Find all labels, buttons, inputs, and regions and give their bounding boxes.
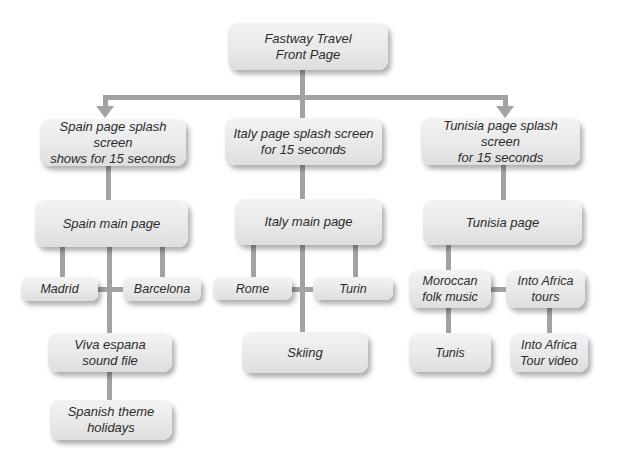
connector-moroccan-tours [490,287,507,292]
node-into-africa-tours: Into Africa tours [506,270,585,308]
connector-moroccan-tunis [446,306,451,334]
connector-spain-madrid [60,245,65,278]
connector-italy-turin [353,244,358,278]
arrow-down-icon-tunisia [496,106,514,118]
connector-spain-splash-main [106,165,111,201]
node-italy-splash: Italy page splash screen for 15 seconds [225,118,382,165]
connector-tours-video [547,306,552,334]
node-spain-main: Spain main page [35,200,188,247]
node-spain-splash: Spain page splash screen shows for 15 se… [40,119,186,166]
connector-madrid-barcelona [97,287,124,292]
connector-tunisia-moroccan [446,244,451,271]
connector-spain-barcelona [160,245,165,278]
node-moroccan-folk-music: Moroccan folk music [409,270,491,308]
connector-viva-spanish-theme [107,370,112,401]
connector-front-vertical [300,70,305,118]
connector-top-horizontal [103,95,508,100]
node-italy-main: Italy main page [235,199,382,245]
node-front-page: Fastway Travel Front Page [228,23,388,70]
node-tunisia-splash: Tunisia page splash screen for 15 second… [421,118,580,165]
node-spanish-theme: Spanish theme holidays [50,400,172,440]
connector-rome-turin [291,287,314,292]
node-viva-espana: Viva espana sound file [48,333,172,372]
node-rome: Rome [213,277,292,300]
connector-italy-splash-main [300,163,305,200]
arrow-down-icon-spain [96,106,114,118]
connector-tunisia-splash-main [501,163,506,201]
site-structure-diagram: Fastway Travel Front Page Spain page spl… [0,0,617,465]
connector-italy-rome [251,244,256,278]
node-madrid: Madrid [21,277,98,301]
node-into-africa-tour-video: Into Africa Tour video [510,333,588,372]
node-tunisia-main: Tunisia page [423,200,582,245]
node-barcelona: Barcelona [123,277,201,301]
node-skiing: Skiing [242,332,368,373]
node-turin: Turin [313,277,393,300]
node-tunis: Tunis [409,333,491,372]
